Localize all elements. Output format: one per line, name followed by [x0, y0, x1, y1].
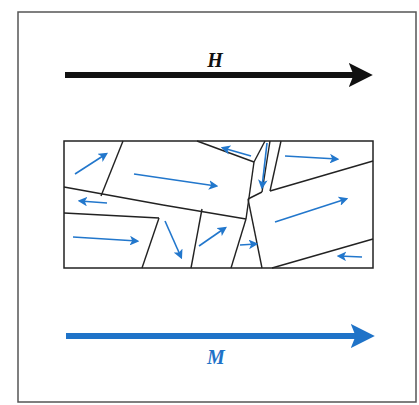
- field-label-h: H: [206, 49, 224, 71]
- diagram-canvas: H M: [0, 0, 419, 405]
- domain-magnetization-arrow-icon: [240, 244, 256, 245]
- domain-magnetization-arrow-icon: [339, 256, 362, 257]
- magnetization-label-m: M: [206, 346, 226, 368]
- polycrystal-grains: [64, 141, 373, 268]
